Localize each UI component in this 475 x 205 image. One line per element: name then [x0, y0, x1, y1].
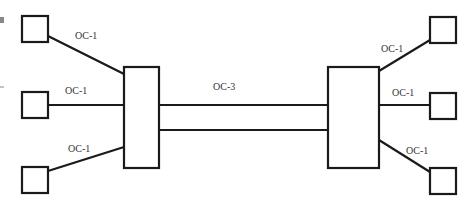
left-multiplexer-box — [124, 67, 159, 168]
left-terminal-box-1 — [22, 16, 48, 42]
oc3-label: OC-3 — [213, 81, 235, 92]
network-diagram: OC-1OC-1OC-1OC-1OC-1OC-1OC-3 — [0, 0, 475, 205]
right-multiplexer-box — [328, 67, 379, 168]
right-terminal-box-2 — [430, 93, 456, 119]
oc1-label-right-2: OC-1 — [392, 87, 414, 98]
left-terminal-box-2 — [22, 92, 48, 118]
oc1-link-left-1 — [48, 36, 124, 74]
oc1-label-left-3: OC-1 — [68, 143, 90, 154]
edge-artifacts — [0, 17, 4, 87]
right-terminal-box-3 — [430, 168, 456, 194]
edge-mark-square — [0, 17, 4, 23]
oc1-label-right-3: OC-1 — [406, 145, 428, 156]
left-terminal-box-3 — [22, 167, 48, 193]
right-terminal-box-1 — [430, 17, 456, 43]
oc1-label-right-1: OC-1 — [381, 43, 403, 54]
oc1-label-left-1: OC-1 — [75, 30, 97, 41]
oc1-label-left-2: OC-1 — [65, 85, 87, 96]
